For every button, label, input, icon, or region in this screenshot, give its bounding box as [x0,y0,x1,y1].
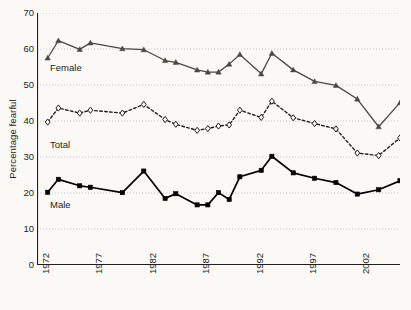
x-axis-tick-labels: 1972197719821987199219972002 [0,0,411,310]
x-tick-label-2002: 2002 [361,253,371,274]
x-tick-label-1982: 1982 [148,253,158,274]
x-tick-label-1987: 1987 [201,253,211,274]
series-label-total: Total [50,140,70,150]
series-label-female: Female [50,63,82,73]
x-tick-label-1997: 1997 [308,253,318,274]
chart-figure: 010203040506070 Percentage fearful 19721… [0,0,411,310]
series-label-male: Male [50,200,71,210]
x-tick-label-1977: 1977 [94,253,104,274]
x-tick-label-1992: 1992 [255,253,265,274]
x-tick-label-1972: 1972 [41,253,51,274]
